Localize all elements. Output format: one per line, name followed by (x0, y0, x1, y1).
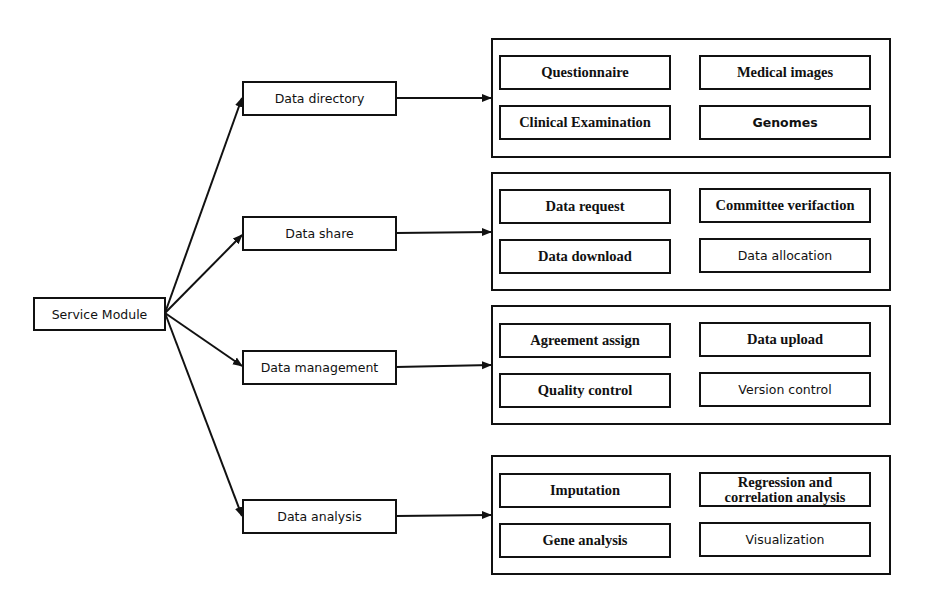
data-share-node: Data share (242, 216, 397, 251)
service-module-diagram: Service Module Data directory Data share… (0, 0, 926, 595)
service-module-label: Service Module (52, 307, 148, 322)
arrow-root-to-data-directory (165, 98, 242, 313)
group-item-version-control: Version control (699, 372, 871, 407)
arrow-data-analysis-to-group (396, 515, 491, 516)
data-share-label: Data share (285, 226, 353, 241)
group-item-committee-verifaction: Committee verifaction (699, 188, 871, 223)
group-item-regression-correlation-analysis: Regression and correlation analysis (699, 472, 871, 507)
arrow-root-to-data-management (165, 313, 242, 366)
group-item-data-download: Data download (499, 239, 671, 274)
data-management-node: Data management (242, 350, 397, 385)
service-module-node: Service Module (33, 297, 166, 331)
arrow-root-to-data-analysis (165, 313, 242, 516)
data-directory-node: Data directory (242, 81, 397, 116)
group-item-gene-analysis: Gene analysis (499, 523, 671, 558)
group-item-data-upload: Data upload (699, 322, 871, 357)
group-item-quality-control: Quality control (499, 373, 671, 408)
group-item-visualization: Visualization (699, 522, 871, 557)
group-item-data-allocation: Data allocation (699, 238, 871, 273)
data-analysis-node: Data analysis (242, 499, 397, 534)
data-directory-label: Data directory (275, 91, 365, 106)
group-item-genomes: Genomes (699, 105, 871, 140)
data-analysis-label: Data analysis (277, 509, 361, 524)
group-item-medical-images: Medical images (699, 55, 871, 90)
arrow-data-management-to-group (396, 365, 491, 367)
group-item-questionnaire: Questionnaire (499, 55, 671, 90)
group-item-agreement-assign: Agreement assign (499, 323, 671, 358)
group-item-data-request: Data request (499, 189, 671, 224)
group-item-clinical-examination: Clinical Examination (499, 105, 671, 140)
group-item-imputation: Imputation (499, 473, 671, 508)
arrow-root-to-data-share (165, 235, 242, 313)
data-management-label: Data management (261, 360, 379, 375)
arrow-data-share-to-group (396, 232, 491, 233)
